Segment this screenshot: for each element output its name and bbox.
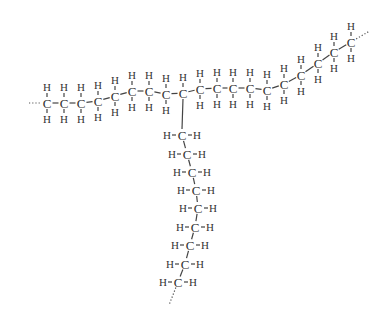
hydrogen-atom: H	[263, 68, 271, 80]
hydrogen-atom: H	[128, 101, 136, 113]
hydrogen-atom: H	[60, 113, 68, 125]
hydrogen-atom: H	[94, 111, 102, 123]
carbon-atom: C	[330, 45, 339, 60]
carbon-atom: C	[43, 96, 52, 111]
carbon-atom: C	[188, 165, 197, 180]
chain-continuation-bottom	[169, 288, 176, 305]
hydrogen-atom: H	[213, 66, 221, 78]
carbon-carbon-bond	[103, 98, 109, 100]
hydrogen-atom: H	[207, 184, 215, 196]
carbon-atom: C	[194, 201, 203, 216]
hydrogen-atom: H	[159, 276, 167, 288]
carbon-carbon-bond	[272, 86, 279, 88]
carbon-atom: C	[145, 84, 154, 99]
branch-bond	[182, 99, 183, 129]
hydrogen-atom: H	[111, 74, 119, 86]
carbon-atom: C	[347, 35, 356, 50]
hydrogen-atom: H	[94, 79, 102, 91]
carbon-carbon-bond	[255, 89, 261, 90]
hydrogen-atom: H	[168, 148, 176, 160]
hydrogen-atom: H	[196, 258, 204, 270]
carbon-atom: C	[162, 87, 171, 102]
carbon-atom: C	[314, 56, 323, 71]
carbon-atom: C	[297, 68, 306, 83]
hydrogen-atom: H	[280, 94, 288, 106]
carbon-atom: C	[186, 238, 195, 253]
hydrogen-atom: H	[213, 98, 221, 110]
hydrogen-atom: H	[77, 81, 85, 93]
carbon-atom: C	[77, 96, 86, 111]
carbon-carbon-bond	[188, 90, 194, 91]
carbon-carbon-bond	[86, 102, 92, 103]
carbon-atom: C	[192, 183, 201, 198]
structural-formula-canvas: CHHCHHCHHCHHCHHCHHCHHCHHCHCHHCHHCHHCHHCH…	[0, 0, 391, 316]
hydrogen-atom: H	[176, 221, 184, 233]
carbon-atom: C	[181, 257, 190, 272]
hydrogen-atom: H	[206, 221, 214, 233]
carbon-carbon-bond	[323, 55, 330, 60]
hydrogen-atom: H	[246, 66, 254, 78]
hydrogen-atom: H	[229, 66, 237, 78]
hydrogen-atom: H	[280, 62, 288, 74]
hydrogen-atom: H	[330, 62, 338, 74]
hydrogen-atom: H	[171, 239, 179, 251]
hydrogen-atom: H	[347, 52, 355, 64]
carbon-carbon-bond	[289, 78, 296, 82]
carbon-atom: C	[178, 128, 187, 143]
carbon-atom: C	[128, 84, 137, 99]
hydrogen-atom: H	[60, 81, 68, 93]
hydrogen-atom: H	[297, 53, 305, 65]
carbon-carbon-bond	[154, 92, 160, 93]
hydrogen-atom: H	[229, 98, 237, 110]
carbon-atom: C	[246, 81, 255, 96]
hydrogen-atom: H	[179, 202, 187, 214]
hydrogen-atom: H	[111, 106, 119, 118]
carbon-atom: C	[263, 83, 272, 98]
hydrogen-atom: H	[198, 148, 206, 160]
hydrogen-atom: H	[43, 81, 51, 93]
hydrogen-atom: H	[330, 30, 338, 42]
hydrogen-atom: H	[196, 99, 204, 111]
hydrogen-atom: H	[145, 101, 153, 113]
chain-continuation-right	[356, 32, 368, 39]
hydrogen-atom: H	[201, 239, 209, 251]
carbon-atom: C	[111, 89, 120, 104]
hydrogen-atom: H	[246, 98, 254, 110]
hydrogen-atom: H	[347, 20, 355, 32]
hydrogen-atom: H	[196, 67, 204, 79]
hydrogen-atom: H	[173, 166, 181, 178]
carbon-carbon-bond	[339, 45, 347, 49]
carbon-carbon-bond	[305, 66, 313, 72]
carbon-atom: C	[191, 220, 200, 235]
hydrogen-atom: H	[145, 69, 153, 81]
carbon-carbon-bond	[120, 93, 126, 95]
hydrogen-atom: H	[189, 276, 197, 288]
hydrogen-atom: H	[162, 72, 170, 84]
carbon-atom: C	[229, 81, 238, 96]
hydrogen-atom: H	[162, 104, 170, 116]
hydrogen-atom: H	[263, 100, 271, 112]
hydrogen-atom: H	[314, 73, 322, 85]
hydrogen-atom: H	[128, 69, 136, 81]
carbon-atom: C	[179, 86, 188, 101]
hydrogen-atom: H	[314, 41, 322, 53]
hydrogen-atom: H	[177, 184, 185, 196]
carbon-atom: C	[183, 147, 192, 162]
hydrogen-atom: H	[297, 85, 305, 97]
carbon-atom: C	[174, 275, 183, 290]
hydrogen-atom: H	[179, 71, 187, 83]
hydrogen-atom: H	[43, 113, 51, 125]
hydrogen-atom: H	[163, 129, 171, 141]
polymer-structure-diagram: CHHCHHCHHCHHCHHCHHCHHCHHCHCHHCHHCHHCHHCH…	[0, 0, 391, 316]
carbon-atom: C	[213, 81, 222, 96]
carbon-atom: C	[196, 82, 205, 97]
carbon-atom: C	[280, 77, 289, 92]
hydrogen-atom: H	[77, 113, 85, 125]
hydrogen-atom: H	[193, 129, 201, 141]
carbon-atom: C	[60, 96, 69, 111]
hydrogen-atom: H	[209, 202, 217, 214]
hydrogen-atom: H	[203, 166, 211, 178]
carbon-atom: C	[94, 94, 103, 109]
hydrogen-atom: H	[166, 258, 174, 270]
